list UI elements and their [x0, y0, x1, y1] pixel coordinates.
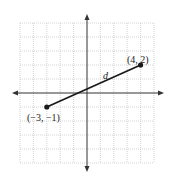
x-axis-right-arrow-icon: [158, 91, 164, 96]
endpoint-a-dot-icon: [44, 104, 49, 109]
y-axis-down-arrow-icon: [85, 166, 90, 172]
coordinate-plane: (4, 2) (−3, −1) d: [0, 0, 176, 183]
axes: [12, 14, 164, 172]
x-axis-left-arrow-icon: [12, 91, 18, 96]
point-label-a: (−3, −1): [27, 112, 60, 124]
y-axis-up-arrow-icon: [85, 14, 90, 20]
segment-d: [44, 62, 143, 109]
point-label-b: (4, 2): [127, 54, 149, 66]
segment-line: [47, 65, 141, 107]
